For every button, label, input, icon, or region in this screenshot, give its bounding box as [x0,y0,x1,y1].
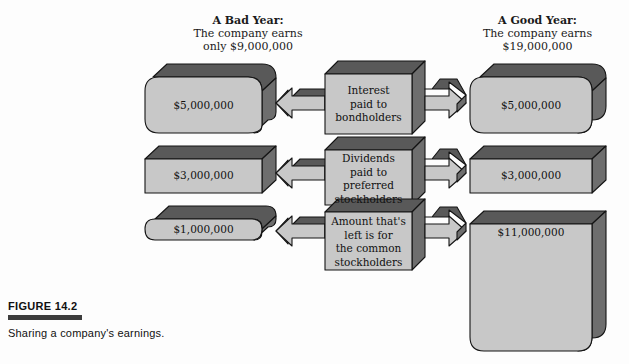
center-box-3 [325,199,425,270]
figure-caption-text: Sharing a company's earnings. [8,327,238,339]
right-box-3 [470,211,606,351]
left-box-1 [145,64,276,133]
figure-number: FIGURE 14.2 [8,300,238,312]
right-box-1 [470,64,606,133]
arrow-right-row-3 [425,207,466,246]
left-box-3 [145,206,276,240]
figure-rule [8,315,82,320]
center-box-1 [325,61,425,134]
figure-container: A Bad Year: The company earns only $9,00… [0,0,629,364]
arrow-right-row-2 [425,149,466,188]
left-box-2 [145,146,276,193]
figure-caption-block: FIGURE 14.2 Sharing a company's earnings… [8,300,238,339]
center-box-2 [325,137,425,205]
arrow-right-row-1 [425,79,466,118]
right-box-2 [470,146,606,193]
